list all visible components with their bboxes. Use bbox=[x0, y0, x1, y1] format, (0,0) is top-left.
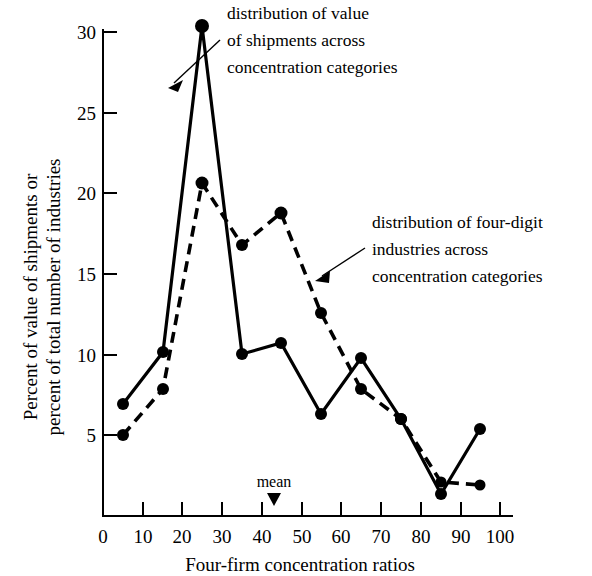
annotation-shipments-line2: of shipments across bbox=[227, 30, 365, 50]
data-point-industries-65 bbox=[355, 383, 367, 395]
data-point-shipments-95 bbox=[474, 423, 486, 435]
x-tick-label-10: 10 bbox=[134, 526, 153, 547]
annotation-shipments-line1: distribution of value bbox=[227, 3, 369, 23]
mean-marker: mean bbox=[257, 473, 292, 506]
annotation-industries-arrowhead bbox=[315, 271, 330, 283]
series-shipments-solid bbox=[117, 19, 486, 500]
series-shipments-line bbox=[123, 26, 480, 494]
y-axis-tick-labels: 30 25 20 15 10 5 bbox=[77, 22, 96, 446]
x-tick-label-20: 20 bbox=[173, 526, 192, 547]
x-tick-label-40: 40 bbox=[253, 526, 272, 547]
x-axis-title: Four-firm concentration ratios bbox=[185, 554, 415, 575]
data-point-industries-35 bbox=[236, 239, 248, 251]
data-point-industries-25 bbox=[196, 177, 209, 190]
x-axis-ticks bbox=[103, 502, 500, 516]
chart-svg: 30 25 20 15 10 5 0 10 20 30 40 bbox=[0, 0, 592, 576]
mean-marker-label: mean bbox=[257, 473, 292, 490]
x-tick-label-60: 60 bbox=[332, 526, 351, 547]
annotation-shipments: distribution of value of shipments acros… bbox=[168, 3, 398, 92]
x-tick-label-100: 100 bbox=[486, 526, 515, 547]
data-point-shipments-65 bbox=[355, 352, 367, 364]
annotation-industries-leader bbox=[322, 248, 365, 276]
data-point-shipments-5 bbox=[117, 398, 129, 410]
y-tick-label-20: 20 bbox=[77, 183, 96, 204]
y-tick-label-30: 30 bbox=[77, 22, 96, 43]
y-tick-label-10: 10 bbox=[77, 345, 96, 366]
data-point-shipments-75 bbox=[395, 413, 407, 425]
x-tick-label-80: 80 bbox=[412, 526, 431, 547]
data-point-industries-45 bbox=[275, 207, 288, 220]
chart-figure: 30 25 20 15 10 5 0 10 20 30 40 bbox=[0, 0, 592, 576]
x-tick-label-50: 50 bbox=[293, 526, 312, 547]
y-axis-title-line1: Percent of value of shipments or bbox=[20, 173, 41, 420]
y-tick-label-15: 15 bbox=[77, 264, 96, 285]
annotation-shipments-line3: concentration categories bbox=[227, 57, 398, 77]
data-point-shipments-35 bbox=[236, 348, 248, 360]
data-point-shipments-85 bbox=[435, 488, 447, 500]
y-axis-ticks bbox=[103, 32, 117, 435]
annotation-industries-line2: industries across bbox=[372, 239, 488, 259]
data-point-shipments-25 bbox=[195, 19, 209, 33]
x-tick-label-90: 90 bbox=[452, 526, 471, 547]
down-triangle-icon bbox=[267, 493, 281, 506]
annotation-industries-line3: concentration categories bbox=[372, 266, 543, 286]
x-tick-label-70: 70 bbox=[372, 526, 391, 547]
x-axis-tick-labels: 0 10 20 30 40 50 60 70 80 90 100 bbox=[98, 526, 514, 547]
data-point-industries-15 bbox=[157, 383, 169, 395]
data-point-shipments-45 bbox=[275, 337, 287, 349]
x-tick-label-30: 30 bbox=[213, 526, 232, 547]
data-point-industries-55 bbox=[315, 307, 327, 319]
y-tick-label-5: 5 bbox=[87, 425, 97, 446]
y-tick-label-25: 25 bbox=[77, 103, 96, 124]
annotation-industries-line1: distribution of four-digit bbox=[372, 212, 543, 232]
data-point-shipments-55 bbox=[315, 408, 327, 420]
data-point-industries-5 bbox=[117, 429, 129, 441]
data-point-shipments-15 bbox=[157, 346, 169, 358]
y-axis-title-line2: percent of total number of industries bbox=[43, 158, 64, 435]
data-point-industries-95 bbox=[475, 480, 486, 491]
x-tick-label-0: 0 bbox=[98, 526, 108, 547]
annotation-industries: distribution of four-digit industries ac… bbox=[315, 212, 543, 286]
